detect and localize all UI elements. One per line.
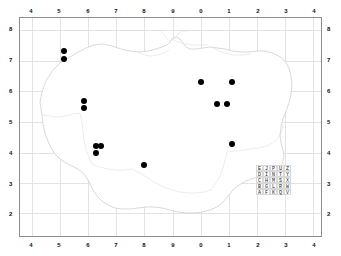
cipher-cell: A bbox=[256, 189, 263, 195]
axis-tick-top: 4 bbox=[29, 8, 32, 15]
axis-tick-right: 6 bbox=[327, 88, 330, 95]
axis-tick-right: 5 bbox=[327, 119, 330, 126]
axis-tick-top: 2 bbox=[256, 8, 259, 15]
axis-tick-top: 8 bbox=[142, 8, 145, 15]
data-point[interactable] bbox=[214, 101, 220, 107]
data-point[interactable] bbox=[61, 56, 67, 62]
data-point[interactable] bbox=[198, 79, 204, 85]
axis-tick-right: 7 bbox=[327, 57, 330, 64]
map-figure: E J P U Z D I N T Y C H M S X B bbox=[0, 0, 341, 256]
axis-tick-top: 5 bbox=[57, 8, 60, 15]
axis-tick-top: 6 bbox=[86, 8, 89, 15]
axis-tick-bottom: 7 bbox=[114, 242, 117, 249]
axis-tick-bottom: 2 bbox=[256, 242, 259, 249]
axis-tick-right: 8 bbox=[327, 26, 330, 33]
axis-tick-left: 2 bbox=[9, 211, 12, 218]
axis-tick-left: 5 bbox=[9, 119, 12, 126]
cipher-cell: V bbox=[284, 189, 291, 195]
axis-tick-bottom: 6 bbox=[86, 242, 89, 249]
data-point[interactable] bbox=[61, 48, 67, 54]
axis-tick-left: 4 bbox=[9, 150, 12, 157]
cipher-row: A F K Q V bbox=[256, 189, 291, 195]
axis-tick-bottom: 4 bbox=[312, 242, 315, 249]
axis-tick-bottom: 1 bbox=[227, 242, 230, 249]
axis-tick-right: 3 bbox=[327, 181, 330, 188]
axis-tick-left: 8 bbox=[9, 26, 12, 33]
axis-tick-right: 2 bbox=[327, 211, 330, 218]
axis-tick-top: 0 bbox=[199, 8, 202, 15]
plot-area[interactable]: E J P U Z D I N T Y C H M S X B bbox=[19, 17, 322, 237]
cipher-cell: K bbox=[270, 189, 277, 195]
axis-tick-left: 6 bbox=[9, 88, 12, 95]
axis-tick-bottom: 5 bbox=[57, 242, 60, 249]
axis-tick-top: 9 bbox=[171, 8, 174, 15]
axis-tick-top: 7 bbox=[114, 8, 117, 15]
axis-tick-bottom: 0 bbox=[199, 242, 202, 249]
axis-tick-bottom: 8 bbox=[142, 242, 145, 249]
axis-tick-left: 7 bbox=[9, 57, 12, 64]
cipher-cell: F bbox=[263, 189, 270, 195]
cipher-cell: Q bbox=[277, 189, 284, 195]
axis-tick-top: 3 bbox=[284, 8, 287, 15]
playfair-cipher-square: E J P U Z D I N T Y C H M S X B bbox=[256, 165, 291, 195]
axis-tick-right: 4 bbox=[327, 150, 330, 157]
axis-tick-bottom: 4 bbox=[29, 242, 32, 249]
data-point[interactable] bbox=[93, 150, 99, 156]
axis-tick-top: 1 bbox=[227, 8, 230, 15]
axis-tick-left: 3 bbox=[9, 181, 12, 188]
axis-tick-bottom: 9 bbox=[171, 242, 174, 249]
axis-tick-bottom: 3 bbox=[284, 242, 287, 249]
axis-tick-top: 4 bbox=[312, 8, 315, 15]
